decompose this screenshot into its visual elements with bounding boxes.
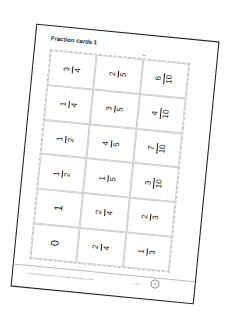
fraction: 7 10	[148, 142, 168, 155]
copyright-text: Cambridge Mathematics Ks2 1 © Cambridge …	[28, 272, 93, 280]
fraction: 2 5	[109, 70, 128, 79]
denominator: 10	[158, 143, 167, 155]
fraction-card: 2 5	[94, 55, 144, 94]
fraction: 6 10	[154, 72, 174, 85]
numerator: 2	[109, 70, 118, 77]
whole-number-card: 0	[30, 224, 80, 263]
denominator: 10	[165, 74, 174, 86]
numerator: 7	[148, 144, 157, 151]
fraction-card: 1 4	[44, 85, 94, 124]
fraction-card: 6 10	[140, 59, 190, 98]
fraction: 2 4	[92, 243, 111, 252]
denominator: 5	[116, 106, 125, 113]
fraction: 3 10	[144, 176, 164, 189]
numerator: 6	[155, 75, 164, 82]
fraction-card: 1 2	[37, 154, 87, 193]
fraction: 1 3	[138, 248, 157, 257]
page-title: Fraction cards 1	[51, 35, 98, 45]
numerator: 3	[105, 105, 114, 112]
numerator: 1	[138, 248, 147, 255]
denominator: 3	[152, 214, 161, 221]
denominator: 4	[102, 245, 111, 252]
denominator: 10	[155, 178, 164, 190]
numerator: 3	[62, 66, 71, 73]
denominator: 5	[109, 175, 118, 182]
numerator: 1	[98, 174, 107, 181]
denominator: 2	[63, 171, 72, 178]
fraction-card: 2 4	[77, 228, 127, 267]
denominator: 4	[106, 210, 115, 217]
fraction: 3 5	[105, 105, 124, 114]
denominator: 4	[70, 101, 79, 108]
fraction-card: 2 4	[80, 193, 130, 232]
fraction: 4 5	[102, 139, 121, 148]
fraction: 1 2	[56, 135, 75, 144]
fraction: 2 4	[95, 209, 114, 218]
denominator: 5	[119, 71, 128, 78]
numerator: 1	[59, 100, 68, 107]
numerator: 4	[102, 140, 111, 147]
fraction: 2 3	[141, 213, 160, 222]
fraction: 1 2	[52, 169, 71, 178]
fraction-card: 1 2	[41, 120, 91, 159]
fraction: 1 5	[98, 174, 117, 183]
denominator: 5	[113, 141, 122, 148]
fraction: 3 4	[62, 65, 81, 74]
whole-number: 0	[49, 240, 61, 247]
denominator: 3	[148, 249, 157, 256]
numerator: 1	[56, 135, 65, 142]
publisher-badge-icon: N	[150, 279, 160, 289]
whole-number: 1	[53, 205, 65, 212]
numerator: 3	[144, 179, 153, 186]
stage: Fraction cards 1 ✂ 3 4 2 5 6	[0, 0, 225, 316]
numerator: 2	[95, 209, 104, 216]
fraction-card: 3 10	[129, 163, 179, 202]
denominator: 10	[162, 108, 171, 120]
fraction-card: 1 5	[83, 159, 133, 198]
fraction-card: 7 10	[133, 129, 183, 168]
fraction-card-grid: 3 4 2 5 6 10	[29, 49, 190, 273]
fraction: 1 4	[59, 100, 78, 109]
numerator: 4	[151, 109, 160, 116]
numerator: 2	[92, 244, 101, 251]
numerator: 1	[52, 170, 61, 177]
whole-number-card: 1	[34, 189, 84, 228]
worksheet-page: Fraction cards 1 ✂ 3 4 2 5 6	[11, 24, 220, 305]
fraction-card: 2 3	[126, 198, 176, 237]
resource-code: CC 4.3.1	[132, 282, 141, 285]
fraction-card: 4 5	[87, 124, 137, 163]
denominator: 2	[66, 136, 75, 143]
fraction-card: 4 10	[136, 94, 186, 133]
fraction-card: 3 4	[47, 50, 97, 89]
fraction-card: 3 5	[90, 89, 140, 128]
denominator: 4	[73, 67, 82, 74]
numerator: 2	[141, 213, 150, 220]
fraction: 4 10	[151, 107, 171, 120]
fraction-card: 1 3	[123, 233, 173, 272]
